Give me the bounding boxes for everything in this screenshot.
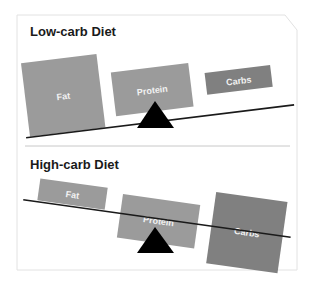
panel-title: Low-carb Diet — [30, 24, 117, 39]
fat-label: Fat — [65, 189, 80, 201]
fat-label: Fat — [56, 91, 71, 103]
diet-balance-diagram: Low-carb Diet Fat Protein Carbs High-car… — [0, 0, 314, 285]
panel-title: High-carb Diet — [30, 157, 120, 172]
